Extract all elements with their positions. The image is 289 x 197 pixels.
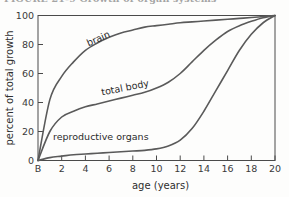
y-axis-title: percent of total growth — [4, 30, 15, 145]
curve-label-reproductive-organs: reproductive organs — [53, 131, 149, 142]
x-tick-label-6: 6 — [106, 163, 112, 174]
y-tick-label-20: 20 — [22, 126, 34, 137]
x-axis-title: age (years) — [132, 180, 189, 191]
y-tick-label-60: 60 — [22, 68, 34, 79]
x-tick-label-8: 8 — [130, 163, 136, 174]
x-tick-label-2: 2 — [59, 163, 65, 174]
x-tick-label-B: B — [35, 163, 42, 174]
growth-chart: 020406080100B2468101214161820braintotal … — [0, 0, 289, 197]
figure-root: FIGURE 21-9 Growth of organ systems 0204… — [0, 0, 289, 197]
x-tick-label-10: 10 — [150, 163, 162, 174]
curve-label-total-body: total body — [100, 77, 150, 97]
x-tick-label-20: 20 — [269, 163, 281, 174]
y-tick-label-0: 0 — [28, 155, 34, 166]
x-tick-label-12: 12 — [174, 163, 186, 174]
y-tick-label-100: 100 — [16, 10, 34, 21]
x-tick-label-14: 14 — [198, 163, 210, 174]
y-tick-label-80: 80 — [22, 39, 34, 50]
x-tick-label-4: 4 — [82, 163, 88, 174]
curve-label-brain: brain — [85, 28, 112, 48]
x-tick-label-16: 16 — [222, 163, 234, 174]
y-tick-label-40: 40 — [22, 97, 34, 108]
x-tick-label-18: 18 — [245, 163, 257, 174]
